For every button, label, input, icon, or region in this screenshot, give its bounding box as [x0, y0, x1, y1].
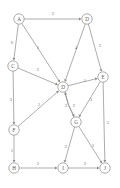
arrowhead-b-e	[99, 69, 102, 72]
graph-figure: ADCDEFGHIJ 261432311323512323	[0, 0, 120, 188]
graph-node-g[interactable]: G	[71, 117, 81, 127]
edge-weight-c-f: 3	[10, 97, 13, 102]
arrowhead-d-e	[95, 77, 98, 80]
nodes-layer: ADCDEFGHIJ	[8, 14, 110, 173]
arrowhead-a-b	[79, 18, 81, 21]
edge-e-j	[103, 82, 105, 161]
edge-weight-a-b: 2	[52, 11, 55, 16]
edge-weight-b-e: 3	[99, 43, 102, 48]
graph-canvas: ADCDEFGHIJ 261432311323512323	[0, 0, 120, 188]
edge-weight-d-e: 1	[84, 78, 87, 83]
edge-weight-g-i: 2	[65, 144, 68, 149]
edge-weight-i-j: 3	[84, 161, 87, 166]
edge-d-e	[68, 79, 96, 86]
arrowhead-h-i	[55, 167, 57, 170]
node-label-b: D	[85, 16, 89, 22]
graph-node-a[interactable]: A	[14, 14, 24, 24]
node-label-a: A	[17, 16, 21, 22]
node-label-e: E	[101, 74, 104, 80]
edge-weight-g-d: 2	[73, 103, 76, 108]
edge-weight-a-d: 1	[37, 45, 40, 50]
node-label-d: D	[61, 84, 65, 90]
arrowhead-c-f	[12, 122, 15, 124]
graph-node-h[interactable]: H	[9, 163, 19, 173]
arrowhead-i-j	[97, 167, 99, 170]
edge-f-d	[18, 91, 58, 126]
graph-node-b[interactable]: D	[82, 14, 92, 24]
edge-weight-e-g: 3	[90, 97, 93, 102]
node-label-f: F	[13, 127, 16, 133]
edge-weight-c-d: 2	[37, 67, 40, 72]
edge-b-d	[65, 24, 85, 81]
node-label-i: I	[62, 165, 64, 171]
graph-node-c[interactable]: C	[8, 61, 18, 71]
edge-weight-f-d: 1	[38, 102, 41, 107]
graph-node-j[interactable]: J	[100, 163, 110, 173]
arrowhead-e-j	[103, 160, 106, 162]
edge-a-d	[22, 23, 59, 81]
edge-weight-e-j: 5	[107, 120, 110, 125]
node-label-h: H	[12, 165, 16, 171]
node-label-g: G	[74, 119, 78, 125]
graph-node-d[interactable]: D	[58, 82, 68, 92]
arrowhead-a-c	[13, 58, 16, 61]
graph-node-i[interactable]: I	[58, 163, 68, 173]
edge-weight-f-h: 1	[11, 148, 14, 153]
edge-c-f	[13, 71, 14, 123]
graph-node-e[interactable]: E	[98, 72, 108, 82]
node-label-c: C	[11, 63, 15, 69]
edge-weight-g-j: 3	[92, 143, 95, 148]
edge-weight-d-g: 3	[65, 103, 68, 108]
node-label-j: J	[104, 165, 106, 171]
edge-weight-h-i: 2	[37, 161, 40, 166]
edge-a-c	[14, 24, 18, 59]
graph-node-f[interactable]: F	[9, 125, 19, 135]
edge-weight-a-c: 6	[11, 40, 14, 45]
edge-g-j	[79, 126, 102, 162]
arrowhead-f-h	[13, 160, 16, 162]
